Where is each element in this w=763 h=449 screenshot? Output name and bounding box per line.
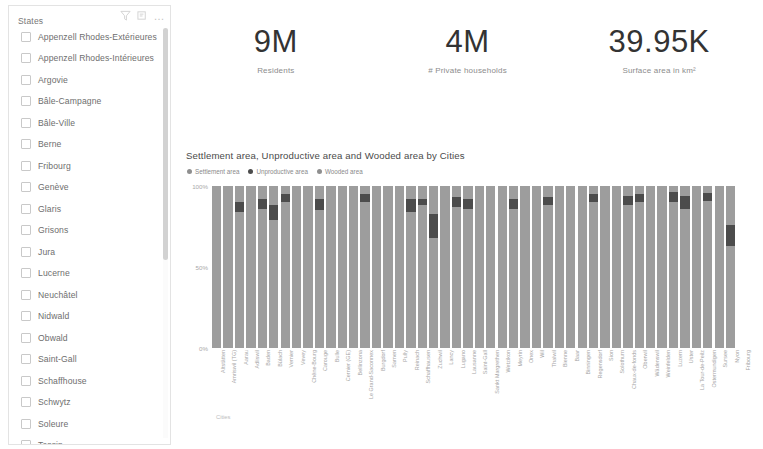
bar[interactable] xyxy=(212,186,221,348)
bar-segment-settlement-area[interactable] xyxy=(726,246,735,348)
bar-segment-settlement-area[interactable] xyxy=(383,194,392,348)
bar-segment-unproductive-area[interactable] xyxy=(543,197,552,205)
bar-segment-settlement-area[interactable] xyxy=(623,205,632,348)
bar[interactable] xyxy=(475,186,484,348)
bar-segment-settlement-area[interactable] xyxy=(326,199,335,348)
bar-segment-wooded-area[interactable] xyxy=(452,186,461,197)
bar-segment-wooded-area[interactable] xyxy=(212,186,221,196)
bar[interactable] xyxy=(440,186,449,348)
bar-segment-unproductive-area[interactable] xyxy=(509,199,518,209)
checkbox-icon[interactable] xyxy=(21,139,31,149)
bar[interactable] xyxy=(303,186,312,348)
checkbox-icon[interactable] xyxy=(21,96,31,106)
bar-segment-settlement-area[interactable] xyxy=(269,220,278,348)
bar-segment-wooded-area[interactable] xyxy=(349,186,358,194)
slicer-item[interactable]: Genève xyxy=(9,177,170,199)
bar[interactable] xyxy=(258,186,267,348)
bar-segment-settlement-area[interactable] xyxy=(657,194,666,348)
bar-segment-unproductive-area[interactable] xyxy=(623,196,632,206)
bar-segment-settlement-area[interactable] xyxy=(315,210,324,348)
bar-segment-wooded-area[interactable] xyxy=(246,186,255,194)
bar-segment-wooded-area[interactable] xyxy=(223,186,232,194)
slicer-item[interactable]: Soleure xyxy=(9,413,170,435)
bar-segment-settlement-area[interactable] xyxy=(509,209,518,348)
bar[interactable] xyxy=(383,186,392,348)
bar-segment-wooded-area[interactable] xyxy=(406,186,415,199)
bar-segment-wooded-area[interactable] xyxy=(543,186,552,197)
bar-segment-wooded-area[interactable] xyxy=(383,186,392,194)
bar-segment-settlement-area[interactable] xyxy=(532,194,541,348)
checkbox-icon[interactable] xyxy=(21,311,31,321)
bar[interactable] xyxy=(555,186,564,348)
eraser-icon[interactable] xyxy=(137,10,148,21)
bar-segment-wooded-area[interactable] xyxy=(623,186,632,196)
checkbox-icon[interactable] xyxy=(21,290,31,300)
bar-segment-unproductive-area[interactable] xyxy=(589,194,598,202)
bar-segment-settlement-area[interactable] xyxy=(235,212,244,348)
bar[interactable] xyxy=(657,186,666,348)
bar[interactable] xyxy=(692,186,701,348)
bar-segment-settlement-area[interactable] xyxy=(612,196,621,348)
bar-segment-unproductive-area[interactable] xyxy=(360,194,369,202)
bar-segment-unproductive-area[interactable] xyxy=(315,199,324,210)
checkbox-icon[interactable] xyxy=(21,440,31,444)
bar-segment-unproductive-area[interactable] xyxy=(726,225,735,246)
slicer-item[interactable]: Glaris xyxy=(9,198,170,220)
bar[interactable] xyxy=(680,186,689,348)
bar-segment-settlement-area[interactable] xyxy=(395,197,404,348)
bar[interactable] xyxy=(360,186,369,348)
bar-segment-settlement-area[interactable] xyxy=(589,202,598,348)
bar-segment-unproductive-area[interactable] xyxy=(281,194,290,202)
bar[interactable] xyxy=(281,186,290,348)
bar-segment-unproductive-area[interactable] xyxy=(429,214,438,238)
bar[interactable] xyxy=(646,186,655,348)
slicer-scrollbar-thumb[interactable] xyxy=(163,28,168,260)
bar[interactable] xyxy=(520,186,529,348)
bar[interactable] xyxy=(703,186,712,348)
bar[interactable] xyxy=(429,186,438,348)
bar-segment-wooded-area[interactable] xyxy=(418,186,427,199)
bar-segment-wooded-area[interactable] xyxy=(440,186,449,194)
bar[interactable] xyxy=(326,186,335,348)
bar-segment-wooded-area[interactable] xyxy=(680,186,689,196)
bar[interactable] xyxy=(292,186,301,348)
slicer-item[interactable]: Lucerne xyxy=(9,263,170,285)
bar[interactable] xyxy=(315,186,324,348)
bar[interactable] xyxy=(623,186,632,348)
bar[interactable] xyxy=(269,186,278,348)
bar-segment-wooded-area[interactable] xyxy=(475,186,484,199)
bar[interactable] xyxy=(715,186,724,348)
slicer-item[interactable]: Saint-Gall xyxy=(9,349,170,371)
bar-segment-settlement-area[interactable] xyxy=(452,207,461,348)
slicer-item[interactable]: Argovie xyxy=(9,69,170,91)
bar[interactable] xyxy=(463,186,472,348)
bar-segment-unproductive-area[interactable] xyxy=(680,196,689,209)
bar-segment-wooded-area[interactable] xyxy=(532,186,541,194)
bar-segment-settlement-area[interactable] xyxy=(258,209,267,348)
bar-segment-settlement-area[interactable] xyxy=(520,199,529,348)
checkbox-icon[interactable] xyxy=(21,32,31,42)
checkbox-icon[interactable] xyxy=(21,268,31,278)
legend-item-wooded-area[interactable]: Wooded area xyxy=(317,168,363,175)
bar[interactable] xyxy=(486,186,495,348)
bar-segment-wooded-area[interactable] xyxy=(338,186,347,196)
bar-segment-settlement-area[interactable] xyxy=(646,194,655,348)
bar-segment-settlement-area[interactable] xyxy=(600,192,609,348)
bar-segment-settlement-area[interactable] xyxy=(635,202,644,348)
bar[interactable] xyxy=(349,186,358,348)
bar-segment-wooded-area[interactable] xyxy=(635,186,644,194)
bar-segment-settlement-area[interactable] xyxy=(406,212,415,348)
bar-segment-unproductive-area[interactable] xyxy=(258,199,267,209)
bar[interactable] xyxy=(532,186,541,348)
bar-segment-unproductive-area[interactable] xyxy=(269,205,278,220)
slicer-item[interactable]: Grisons xyxy=(9,220,170,242)
bar[interactable] xyxy=(372,186,381,348)
bar[interactable] xyxy=(338,186,347,348)
slicer-item[interactable]: Schaffhouse xyxy=(9,370,170,392)
slicer-item[interactable]: Fribourg xyxy=(9,155,170,177)
states-slicer[interactable]: States … Appenzell Rhodes-ExtérieuresApp… xyxy=(8,5,171,445)
checkbox-icon[interactable] xyxy=(21,376,31,386)
bar-segment-wooded-area[interactable] xyxy=(612,186,621,196)
checkbox-icon[interactable] xyxy=(21,75,31,85)
slicer-item[interactable]: Obwald xyxy=(9,327,170,349)
